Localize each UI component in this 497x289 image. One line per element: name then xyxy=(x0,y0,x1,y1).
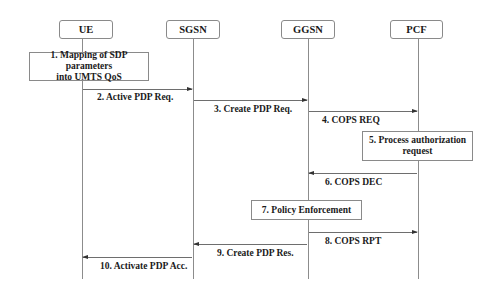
process-box-step-1: 1. Mapping of SDP parameters into UMTS Q… xyxy=(29,52,149,81)
arrow-step-9 xyxy=(194,244,307,245)
actor-pcf-label: PCF xyxy=(406,24,426,35)
arrow-step-6 xyxy=(309,173,417,174)
actor-ggsn-label: GGSN xyxy=(293,24,323,35)
arrow-step-3 xyxy=(194,100,307,101)
process-box-step-5: 5. Process authorization request xyxy=(362,131,473,161)
process-box-step-7: 7. Policy Enforcement xyxy=(251,200,362,220)
message-label-step-10: 10. Activate PDP Acc. xyxy=(100,261,187,271)
actor-sgsn: SGSN xyxy=(166,20,220,39)
lifeline-ggsn xyxy=(308,39,309,279)
actor-ue-label: UE xyxy=(79,24,94,35)
arrowhead-left-icon xyxy=(308,171,314,175)
message-label-step-6: 6. COPS DEC xyxy=(325,177,382,187)
step-5-line1: 5. Process authorization xyxy=(369,135,466,146)
arrowhead-right-icon xyxy=(302,98,308,102)
message-label-step-4: 4. COPS REQ xyxy=(322,115,380,125)
actor-ue: UE xyxy=(59,20,113,39)
step-1-line2: into UMTS QoS xyxy=(56,72,121,83)
actor-pcf: PCF xyxy=(390,20,443,39)
actor-ggsn: GGSN xyxy=(281,20,335,39)
arrow-step-8 xyxy=(309,232,417,233)
arrowhead-left-icon xyxy=(193,242,199,246)
arrow-step-2 xyxy=(83,89,192,90)
arrow-step-10 xyxy=(83,257,192,258)
step-5-line2: request xyxy=(403,146,433,157)
step-1-line1: 1. Mapping of SDP parameters xyxy=(30,50,148,72)
message-label-step-8: 8. COPS RPT xyxy=(325,236,381,246)
arrowhead-right-icon xyxy=(187,87,193,91)
arrowhead-right-icon xyxy=(412,109,418,113)
step-7-line1: 7. Policy Enforcement xyxy=(262,205,351,216)
message-label-step-2: 2. Active PDP Req. xyxy=(97,92,173,102)
arrowhead-left-icon xyxy=(82,255,88,259)
actor-sgsn-label: SGSN xyxy=(179,24,206,35)
arrow-step-4 xyxy=(309,111,417,112)
message-label-step-3: 3. Create PDP Req. xyxy=(214,104,292,114)
arrowhead-right-icon xyxy=(412,230,418,234)
message-label-step-9: 9. Create PDP Res. xyxy=(217,248,294,258)
